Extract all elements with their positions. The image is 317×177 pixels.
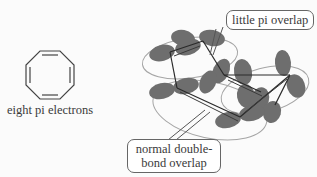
callout-text-line1: normal double- (133, 142, 215, 156)
little-pi-overlap-callout: little pi overlap (226, 10, 314, 30)
cot-diagram: eight pi electrons little pi overlap nor… (0, 0, 317, 177)
normal-double-bond-overlap-callout: normal double- bond overlap (127, 139, 221, 173)
cyclooctatetraene-structure (26, 51, 74, 99)
cot-caption: eight pi electrons (7, 103, 93, 117)
callout-text-line2: bond overlap (133, 156, 215, 170)
callout-text: little pi overlap (232, 13, 308, 27)
